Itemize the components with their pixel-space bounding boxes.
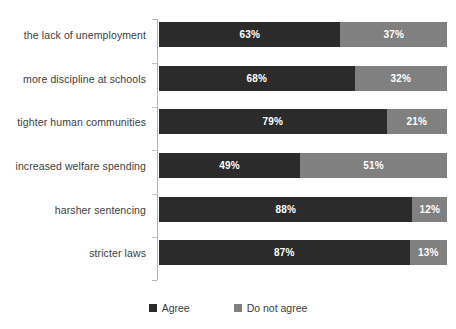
bar-segment-agree[interactable]: 88% [159,197,412,222]
bar-segment-agree[interactable]: 49% [159,153,300,178]
category-label: tighter human communities [0,100,146,144]
axis-cap-bottom [152,280,157,281]
legend-item-agree[interactable]: Agree [149,302,190,314]
bar-segment-do-not-agree[interactable]: 51% [300,153,447,178]
legend-label: Agree [162,302,190,314]
bar-value-label: 21% [406,116,427,127]
chart-row: increased welfare spending 49% 51% [0,144,456,188]
bar-segment-do-not-agree[interactable]: 13% [410,240,447,265]
stacked-bar-chart: the lack of unemployment 63% 37% more di… [0,0,456,329]
bar-value-label: 13% [418,247,439,258]
stacked-bar[interactable]: 63% 37% [159,22,447,47]
legend-swatch-do-not-agree [234,304,242,312]
chart-legend: Agree Do not agree [0,298,456,318]
bar-value-label: 88% [275,204,296,215]
stacked-bar[interactable]: 49% 51% [159,153,447,178]
bar-value-label: 12% [419,204,440,215]
bar-segment-agree[interactable]: 63% [159,22,340,47]
stacked-bar[interactable]: 88% 12% [159,197,447,222]
category-label: more discipline at schools [0,57,146,101]
chart-row: tighter human communities 79% 21% [0,100,456,144]
category-label: the lack of unemployment [0,13,146,57]
category-label: harsher sentencing [0,188,146,232]
bar-value-label: 63% [239,29,260,40]
legend-label: Do not agree [247,302,308,314]
legend-swatch-agree [149,304,157,312]
bar-segment-do-not-agree[interactable]: 12% [412,197,447,222]
stacked-bar[interactable]: 68% 32% [159,66,447,91]
bar-segment-do-not-agree[interactable]: 21% [387,109,447,134]
bar-value-label: 79% [262,116,283,127]
bar-segment-agree[interactable]: 87% [159,240,410,265]
bar-value-label: 68% [247,73,268,84]
chart-row: harsher sentencing 88% 12% [0,188,456,232]
category-label: stricter laws [0,231,146,275]
chart-row: more discipline at schools 68% 32% [0,57,456,101]
bar-value-label: 37% [383,29,404,40]
bar-value-label: 87% [274,247,295,258]
bar-segment-agree[interactable]: 79% [159,109,387,134]
stacked-bar[interactable]: 79% 21% [159,109,447,134]
legend-item-do-not-agree[interactable]: Do not agree [234,302,308,314]
bar-value-label: 49% [219,160,240,171]
stacked-bar[interactable]: 87% 13% [159,240,447,265]
bar-value-label: 32% [391,73,412,84]
bar-segment-do-not-agree[interactable]: 37% [340,22,447,47]
bar-segment-agree[interactable]: 68% [159,66,355,91]
chart-row: stricter laws 87% 13% [0,231,456,275]
bar-segment-do-not-agree[interactable]: 32% [355,66,447,91]
category-label: increased welfare spending [0,144,146,188]
chart-row: the lack of unemployment 63% 37% [0,13,456,57]
bar-value-label: 51% [363,160,384,171]
plot-area: the lack of unemployment 63% 37% more di… [0,0,456,285]
